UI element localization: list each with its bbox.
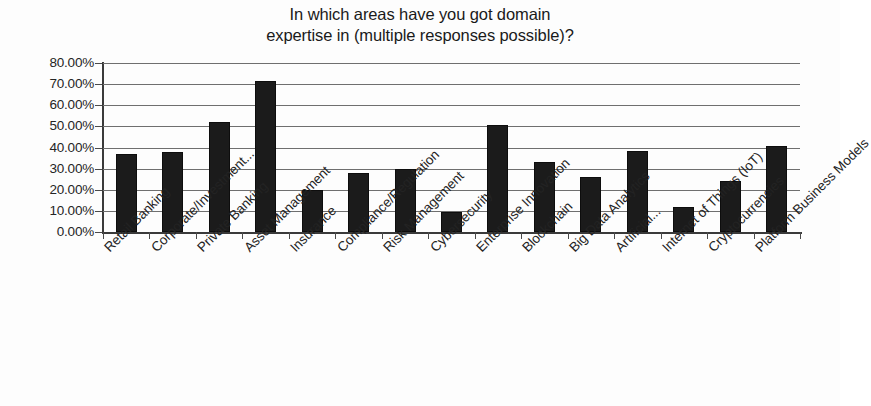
y-axis-tick-label: 10.00% xyxy=(8,204,94,218)
x-axis-tick xyxy=(707,232,708,239)
x-axis-tick xyxy=(196,232,197,239)
y-axis-tick xyxy=(95,63,102,64)
gridline xyxy=(103,63,800,64)
x-axis-tick xyxy=(335,232,336,239)
chart-title-line-1: In which areas have you got domain xyxy=(0,4,840,25)
x-axis-tick xyxy=(149,232,150,239)
x-axis-tick xyxy=(242,232,243,239)
x-axis-tick xyxy=(428,232,429,239)
y-axis-tick-label: 80.00% xyxy=(8,56,94,70)
x-axis-tick xyxy=(661,232,662,239)
chart-title-line-2: expertise in (multiple responses possibl… xyxy=(0,25,840,46)
x-axis-tick xyxy=(289,232,290,239)
y-axis-tick xyxy=(95,126,102,127)
x-axis-tick xyxy=(475,232,476,239)
x-axis-tick xyxy=(614,232,615,239)
chart-title: In which areas have you got domain exper… xyxy=(0,4,840,46)
y-axis-tick xyxy=(95,105,102,106)
gridline xyxy=(103,169,800,170)
gridline xyxy=(103,148,800,149)
x-axis-tick xyxy=(754,232,755,239)
y-axis: 0.00%10.00%20.00%30.00%40.00%50.00%60.00… xyxy=(0,0,94,406)
x-axis-tick xyxy=(103,232,104,239)
y-axis-tick-label: 50.00% xyxy=(8,119,94,133)
y-axis-tick xyxy=(95,232,102,233)
x-axis-tick xyxy=(568,232,569,239)
y-axis-tick-label: 30.00% xyxy=(8,162,94,176)
y-axis-tick-label: 60.00% xyxy=(8,98,94,112)
x-axis-tick xyxy=(800,232,801,239)
y-axis-tick xyxy=(95,190,102,191)
y-axis-tick xyxy=(95,169,102,170)
gridline xyxy=(103,126,800,127)
y-axis-tick xyxy=(95,84,102,85)
gridline xyxy=(103,84,800,85)
y-axis-tick-label: 40.00% xyxy=(8,141,94,155)
x-axis-tick xyxy=(382,232,383,239)
y-axis-tick-label: 70.00% xyxy=(8,77,94,91)
y-axis-tick xyxy=(95,148,102,149)
y-axis-tick-label: 20.00% xyxy=(8,183,94,197)
y-axis-tick xyxy=(95,211,102,212)
x-axis-tick xyxy=(521,232,522,239)
y-axis-tick-label: 0.00% xyxy=(8,225,94,239)
bar[interactable] xyxy=(255,81,276,232)
gridline xyxy=(103,105,800,106)
